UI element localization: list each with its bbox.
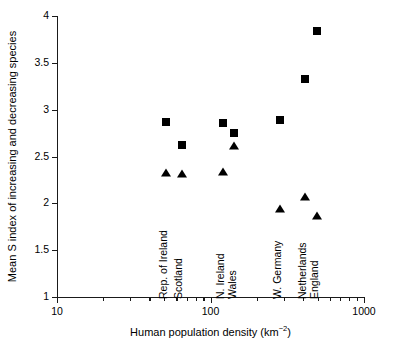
x-axis-minor-tick xyxy=(284,297,285,301)
x-axis-minor-tick xyxy=(349,297,350,301)
y-axis-tick: 2 xyxy=(52,203,57,204)
x-axis-tick-label: 100 xyxy=(202,305,220,318)
x-axis-minor-tick xyxy=(330,297,331,301)
x-axis-minor-tick xyxy=(103,297,104,301)
data-point-triangle xyxy=(177,170,187,178)
x-axis-minor-tick xyxy=(203,297,204,301)
point-label: Scotland xyxy=(173,258,184,299)
data-point-triangle xyxy=(300,193,310,201)
data-point-square xyxy=(178,141,186,149)
point-label: N. Ireland xyxy=(215,253,226,299)
y-axis-tick-label: 3.5 xyxy=(34,56,49,69)
point-label: England xyxy=(309,260,320,299)
data-point-triangle xyxy=(312,212,322,220)
y-axis-tick: 2.5 xyxy=(52,157,57,158)
y-axis-tick-label: 1.5 xyxy=(34,243,49,256)
y-axis-tick: 1.5 xyxy=(52,250,57,251)
x-axis-minor-tick xyxy=(340,297,341,301)
x-axis-tick-label: 10 xyxy=(51,305,63,318)
x-axis-minor-tick xyxy=(130,297,131,301)
data-point-triangle xyxy=(229,142,239,150)
x-axis-title-main: Human population density (km xyxy=(130,326,279,338)
y-axis-tick-label: 2 xyxy=(43,196,49,209)
data-point-square xyxy=(230,129,238,137)
y-axis-tick-label: 3 xyxy=(43,103,49,116)
data-point-square xyxy=(313,27,321,35)
x-axis-title: Human population density (km−2) xyxy=(57,322,364,339)
data-point-square xyxy=(276,116,284,124)
scatter-plot-figure: Mean S index of increasing and decreasin… xyxy=(0,0,403,343)
y-axis-title: Mean S index of increasing and decreasin… xyxy=(4,16,20,297)
data-point-triangle xyxy=(161,169,171,177)
x-axis-minor-tick xyxy=(357,297,358,301)
x-axis-minor-tick xyxy=(196,297,197,301)
x-axis-tick-label: 1000 xyxy=(352,305,375,318)
y-axis-tick: 4 xyxy=(52,16,57,17)
point-label: Netherlands xyxy=(297,242,308,299)
plot-area: 43.532.521.51 101001000 Rep. of IrelandS… xyxy=(57,16,364,297)
point-label: Rep. of Ireland xyxy=(158,230,169,299)
point-label: W. Germany xyxy=(272,241,283,299)
data-point-square xyxy=(219,119,227,127)
x-axis-title-tail: ) xyxy=(287,326,291,338)
x-axis-major-tick xyxy=(57,297,58,303)
data-point-triangle xyxy=(275,205,285,213)
point-label: Wales xyxy=(227,270,238,299)
data-point-square xyxy=(301,75,309,83)
data-point-square xyxy=(162,118,170,126)
x-axis-major-tick xyxy=(364,297,365,303)
x-axis-minor-tick xyxy=(149,297,150,301)
y-axis-tick-label: 1 xyxy=(43,290,49,303)
y-axis-tick: 3 xyxy=(52,110,57,111)
x-axis-title-superscript: −2 xyxy=(279,324,288,333)
y-axis-tick: 3.5 xyxy=(52,63,57,64)
x-axis-minor-tick xyxy=(187,297,188,301)
x-axis-minor-tick xyxy=(257,297,258,301)
x-axis-major-tick xyxy=(211,297,212,303)
data-point-triangle xyxy=(218,168,228,176)
y-axis-tick-label: 2.5 xyxy=(34,150,49,163)
y-axis-tick-label: 4 xyxy=(43,9,49,22)
y-axis-line xyxy=(57,16,58,297)
